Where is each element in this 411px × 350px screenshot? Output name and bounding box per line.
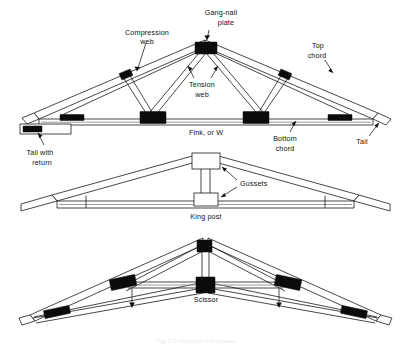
leader-gusset-bottom bbox=[221, 187, 237, 197]
leader-gusset-peak bbox=[222, 167, 237, 180]
label-fink-name: Fink, or W bbox=[189, 128, 223, 137]
sc-gang-nail-plate-peak bbox=[197, 240, 212, 252]
scissor-truss: Scissor bbox=[19, 238, 392, 325]
label-top-chord-line2: chord bbox=[308, 51, 327, 60]
tail-return-plate bbox=[23, 126, 42, 132]
leader-tension-web-a bbox=[188, 66, 194, 78]
king-post-truss: Gussets King post bbox=[21, 153, 390, 221]
truss-diagram-svg: Compression web Gang-nail plate Top chor… bbox=[0, 0, 411, 350]
gusset-peak bbox=[192, 153, 220, 169]
label-gang-nail-plate-line2: plate bbox=[218, 18, 234, 27]
top-chord-left bbox=[34, 40, 205, 119]
gang-nail-plate-heel-left bbox=[60, 115, 84, 121]
label-bottom-chord-line1: Bottom bbox=[273, 134, 297, 143]
gusset-bottom bbox=[194, 193, 218, 206]
tension-web-long-right bbox=[213, 52, 350, 115]
top-chord-right bbox=[205, 40, 378, 119]
label-king-post-name: King post bbox=[190, 212, 221, 221]
label-tail-with-return-line1: Tail with bbox=[27, 148, 54, 157]
label-tension-web-line1: Tension bbox=[189, 80, 215, 89]
tension-web-long-left bbox=[62, 52, 198, 115]
label-compression-web-line1: Compression bbox=[125, 28, 169, 37]
gang-nail-plate-heel-right bbox=[328, 115, 352, 121]
label-bottom-chord-line2: chord bbox=[276, 144, 295, 153]
gang-nail-plate-bottom-right bbox=[243, 112, 269, 124]
fink-truss: Compression web Gang-nail plate Top chor… bbox=[20, 8, 391, 167]
label-tension-web-line2: web bbox=[194, 90, 209, 99]
gang-nail-plate-bottom-left bbox=[140, 112, 166, 124]
leader-tension-web-b bbox=[211, 66, 218, 78]
label-scissor-name: Scissor bbox=[194, 295, 219, 304]
kp-top-chord-left bbox=[52, 155, 196, 201]
kp-top-chord-right bbox=[215, 155, 359, 201]
king-post-member bbox=[201, 166, 210, 196]
label-tail-right: Tail bbox=[356, 137, 368, 146]
label-gang-nail-plate-line1: Gang-nail bbox=[205, 8, 238, 17]
sc-gang-nail-plate-center bbox=[196, 277, 215, 293]
leader-tail-with-return bbox=[38, 133, 44, 145]
kp-tail-left bbox=[21, 195, 57, 211]
kp-tail-right bbox=[354, 195, 390, 211]
gang-nail-plate-peak bbox=[195, 42, 217, 54]
leader-gang-nail-plate bbox=[204, 30, 210, 40]
leader-top-chord bbox=[325, 60, 333, 73]
label-gussets: Gussets bbox=[240, 179, 268, 188]
label-compression-web-line2: web bbox=[139, 37, 154, 46]
truss-figure: Compression web Gang-nail plate Top chor… bbox=[0, 0, 411, 350]
label-tail-with-return-line2: return bbox=[32, 158, 52, 167]
figure-caption: Fig. 7-3 Common roof trusses bbox=[156, 338, 235, 344]
label-top-chord-line1: Top bbox=[312, 41, 324, 50]
